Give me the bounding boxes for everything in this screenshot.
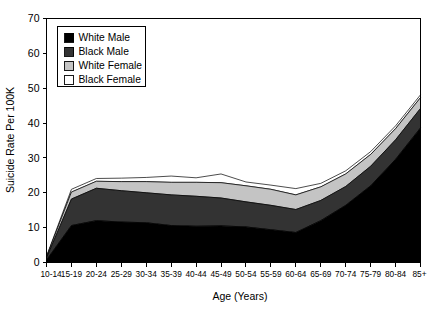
legend-swatch-black-male [65, 47, 74, 56]
x-tick-label: 45-49 [210, 269, 232, 279]
y-tick-label: 60 [28, 47, 40, 59]
legend-label-white-female: White Female [79, 60, 143, 71]
stacked-areas-group [47, 95, 421, 263]
x-tick-label: 15-19 [61, 269, 83, 279]
y-axis-title: Suicide Rate Per 100K [4, 87, 16, 193]
legend-label-white-male: White Male [79, 32, 131, 43]
x-tick-label: 35-39 [161, 269, 183, 279]
legend-label-black-female: Black Female [79, 74, 142, 85]
legend-swatch-white-female [65, 61, 74, 70]
x-tick-label: 50-54 [235, 269, 257, 279]
y-tick-labels-group: 010203040506070 [28, 12, 47, 268]
x-tick-label: 20-24 [86, 269, 108, 279]
x-tick-label: 60-64 [285, 269, 307, 279]
legend-swatch-white-male [65, 33, 74, 42]
x-tick-label: 85+ [412, 269, 426, 279]
y-tick-label: 20 [28, 186, 40, 198]
x-tick-label: 30-34 [136, 269, 158, 279]
y-tick-label: 10 [28, 221, 40, 233]
x-tick-labels-group: 10-1415-1920-2425-2930-3435-3940-4445-49… [41, 263, 427, 280]
x-tick-label: 40-44 [185, 269, 207, 279]
x-tick-label: 10-14 [41, 269, 63, 279]
x-tick-label: 25-29 [111, 269, 133, 279]
x-tick-label: 80-84 [385, 269, 407, 279]
x-tick-label: 55-59 [260, 269, 282, 279]
area-chart: 10-1415-1920-2425-2930-3435-3940-4445-49… [0, 0, 442, 312]
y-tick-label: 0 [34, 256, 40, 268]
chart-legend: White MaleBlack MaleWhite FemaleBlack Fe… [58, 27, 146, 87]
y-tick-label: 70 [28, 12, 40, 24]
y-tick-label: 50 [28, 82, 40, 94]
legend-swatch-black-female [65, 75, 74, 84]
y-tick-label: 40 [28, 117, 40, 129]
x-tick-label: 70-74 [335, 269, 357, 279]
x-tick-label: 75-79 [360, 269, 382, 279]
x-tick-label: 65-69 [310, 269, 332, 279]
chart-container: 10-1415-1920-2425-2930-3435-3940-4445-49… [0, 0, 442, 312]
legend-label-black-male: Black Male [79, 46, 130, 57]
x-axis-title: Age (Years) [212, 290, 267, 302]
y-tick-label: 30 [28, 152, 40, 164]
